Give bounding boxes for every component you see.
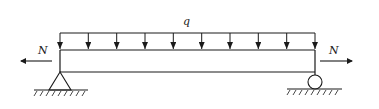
beam	[60, 50, 315, 75]
axial-label-left: N	[37, 44, 48, 57]
roller-support	[287, 75, 342, 95]
ground-hatch-left	[34, 91, 85, 96]
load-arrows	[60, 33, 315, 49]
ground-hatch-right	[287, 90, 338, 95]
axial-label-right: N	[328, 44, 339, 57]
beam-diagram: q	[0, 0, 379, 109]
load-label-q: q	[183, 15, 190, 28]
distributed-load	[60, 33, 315, 49]
pin-support	[34, 72, 88, 96]
